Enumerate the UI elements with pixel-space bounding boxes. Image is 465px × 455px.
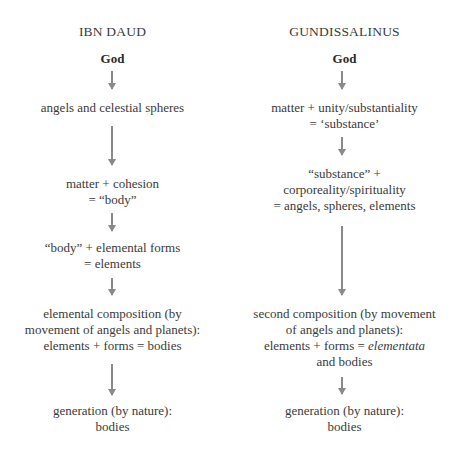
down-arrow-icon bbox=[111, 126, 113, 165]
node-line: elemental composition (by bbox=[0, 306, 225, 322]
node-line: “body” + elemental forms bbox=[0, 240, 225, 256]
down-arrow-icon bbox=[111, 213, 113, 231]
node-line: = angels, spheres, elements bbox=[232, 198, 457, 214]
ibn-daud-column: IBN DAUD God angels and celestial sphere… bbox=[0, 0, 225, 455]
down-arrow-icon bbox=[341, 71, 343, 89]
down-arrow-icon bbox=[341, 377, 343, 394]
node-text-italic: elementata bbox=[368, 338, 425, 353]
node-text: elements + forms = bbox=[264, 338, 368, 353]
gundissalinus-column: GUNDISSALINUS God matter + unity/substan… bbox=[232, 0, 457, 455]
node-god: God bbox=[232, 51, 457, 67]
column-heading: GUNDISSALINUS bbox=[232, 24, 457, 40]
node-line: bodies bbox=[0, 419, 225, 435]
node-line: matter + cohesion bbox=[0, 176, 225, 192]
node-line: “substance” + bbox=[232, 166, 457, 182]
node-line: corporeality/spirituality bbox=[232, 182, 457, 198]
column-heading: IBN DAUD bbox=[0, 24, 225, 40]
node-line: bodies bbox=[232, 419, 457, 435]
node-line: movement of angels and planets): bbox=[0, 322, 225, 338]
down-arrow-icon bbox=[341, 226, 343, 295]
node-line: elements + forms = elementata bbox=[232, 338, 457, 354]
node-god: God bbox=[0, 51, 225, 67]
node-angels-spheres: angels and celestial spheres bbox=[0, 100, 225, 116]
node-line: of angels and planets): bbox=[232, 322, 457, 338]
node-line: = elements bbox=[0, 256, 225, 272]
node-line: elements + forms = bodies bbox=[0, 338, 225, 354]
down-arrow-icon bbox=[111, 278, 113, 295]
node-line: matter + unity/substantiality bbox=[232, 100, 457, 116]
down-arrow-icon bbox=[111, 71, 113, 89]
node-line: generation (by nature): bbox=[0, 403, 225, 419]
node-line: and bodies bbox=[232, 354, 457, 370]
down-arrow-icon bbox=[341, 137, 343, 155]
node-line: = “body” bbox=[0, 192, 225, 208]
down-arrow-icon bbox=[111, 364, 113, 395]
node-line: generation (by nature): bbox=[232, 403, 457, 419]
node-line: second composition (by movement bbox=[232, 306, 457, 322]
node-line: = ‘substance’ bbox=[232, 116, 457, 132]
